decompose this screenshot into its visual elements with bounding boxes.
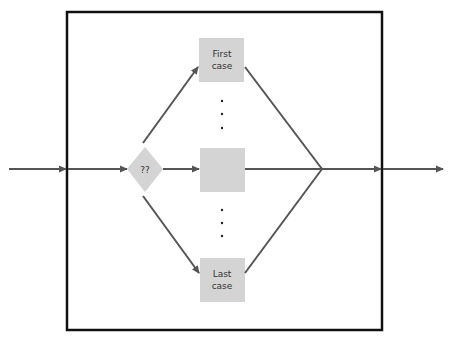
case-box-middle	[200, 148, 245, 192]
ellipsis-upper	[221, 100, 223, 129]
case-last-line2: case	[212, 281, 233, 291]
case-structure-diagram: ?? First case Last case	[0, 0, 451, 344]
decision-diamond: ??	[127, 147, 163, 192]
merge-line-first	[245, 67, 322, 169]
case-box-first: First case	[199, 38, 244, 82]
branch-arrow-last	[143, 196, 199, 273]
case-first-line2: case	[212, 61, 233, 71]
merge-line-last	[245, 169, 322, 273]
case-last-line1: Last	[213, 269, 232, 279]
branch-arrow-first	[143, 67, 198, 143]
case-first-line1: First	[213, 49, 232, 59]
ellipsis-lower	[221, 209, 223, 237]
decision-label: ??	[140, 165, 150, 175]
case-box-last: Last case	[200, 258, 245, 302]
